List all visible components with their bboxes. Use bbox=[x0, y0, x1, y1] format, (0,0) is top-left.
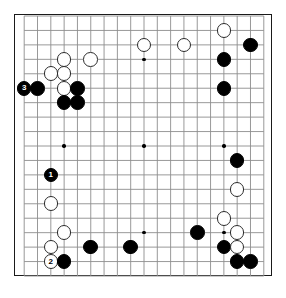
stone-black[interactable] bbox=[230, 153, 245, 168]
stone-white[interactable] bbox=[230, 182, 245, 197]
go-diagram-container: 312 bbox=[0, 0, 286, 298]
star-point bbox=[222, 144, 225, 147]
stone-white[interactable] bbox=[217, 211, 232, 226]
stone-black[interactable] bbox=[190, 225, 205, 240]
go-board[interactable]: 312 bbox=[14, 14, 272, 276]
stone-white[interactable] bbox=[57, 52, 72, 67]
star-point bbox=[142, 231, 145, 234]
stone-black[interactable] bbox=[70, 95, 85, 110]
star-point bbox=[222, 231, 225, 234]
stone-black[interactable] bbox=[217, 52, 232, 67]
star-point bbox=[142, 144, 145, 147]
stone-black[interactable] bbox=[217, 81, 232, 96]
star-point bbox=[62, 144, 65, 147]
stone-black[interactable] bbox=[30, 81, 45, 96]
move-number-label: 1 bbox=[45, 169, 58, 182]
stone-white[interactable] bbox=[44, 196, 59, 211]
stone-black[interactable] bbox=[243, 38, 258, 53]
stone-white[interactable] bbox=[217, 23, 232, 38]
move-number-label: 2 bbox=[45, 255, 58, 268]
stone-white-move-2[interactable]: 2 bbox=[44, 254, 59, 269]
stone-black[interactable] bbox=[70, 81, 85, 96]
stone-white[interactable] bbox=[44, 66, 59, 81]
move-number-label: 3 bbox=[18, 82, 31, 95]
stone-white[interactable] bbox=[83, 52, 98, 67]
stone-black[interactable] bbox=[57, 254, 72, 269]
stone-black[interactable] bbox=[243, 254, 258, 269]
stone-black-move-1[interactable]: 1 bbox=[44, 168, 59, 183]
star-point bbox=[142, 58, 145, 61]
